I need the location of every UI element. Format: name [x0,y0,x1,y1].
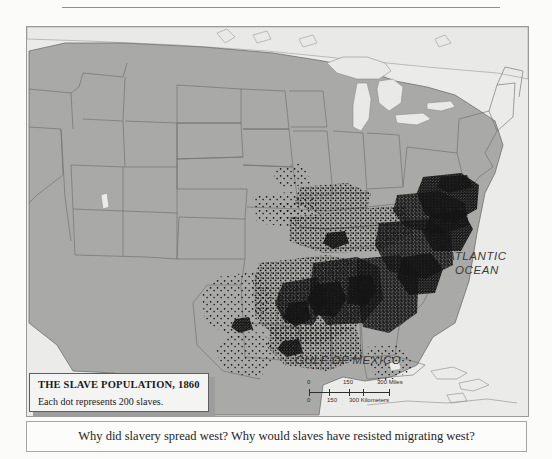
atlantic-ocean-label: ATLANTIC OCEAN [434,249,520,277]
scale-km-150: 150 [327,397,337,403]
figure-caption-box: Why did slavery spread west? Why would s… [26,421,527,452]
scale-tick-mi-150 [349,389,350,396]
scale-kilometers-labels: 0 150 300 Kilometers [307,397,417,406]
scale-tick-mi-300 [389,389,390,396]
scale-miles-labels: 0 150 300 Miles [307,379,417,388]
scale-km-0: 0 [307,397,310,403]
scale-tick-km-300 [363,389,364,396]
top-divider-rule [62,7,500,8]
figure-caption-text: Why did slavery spread west? Why would s… [78,429,475,444]
scale-ruler [307,389,417,396]
atlantic-line-2: OCEAN [434,263,520,277]
atlantic-line-1: ATLANTIC [434,249,520,263]
page-root: ATLANTIC OCEAN GULF OF MEXICO THE SLAVE … [0,0,552,459]
scale-miles-0: 0 [307,379,310,385]
legend-subtitle: Each dot represents 200 slaves. [38,396,200,407]
scale-miles-150: 150 [343,379,353,385]
map-scale-bar: 0 150 300 Miles 0 150 300 Kilometers [307,379,417,417]
gulf-of-mexico-label: GULF OF MEXICO [295,354,401,366]
scale-tick-km-150 [329,389,330,396]
legend-title: THE SLAVE POPULATION, 1860 [38,379,200,390]
map-legend: THE SLAVE POPULATION, 1860 Each dot repr… [29,373,209,412]
scale-tick-0 [309,389,310,396]
us-slave-population-map [27,27,528,416]
map-figure: ATLANTIC OCEAN GULF OF MEXICO THE SLAVE … [26,26,529,417]
scale-km-300: 300 Kilometers [349,397,389,403]
scale-miles-300: 300 Miles [377,379,403,385]
